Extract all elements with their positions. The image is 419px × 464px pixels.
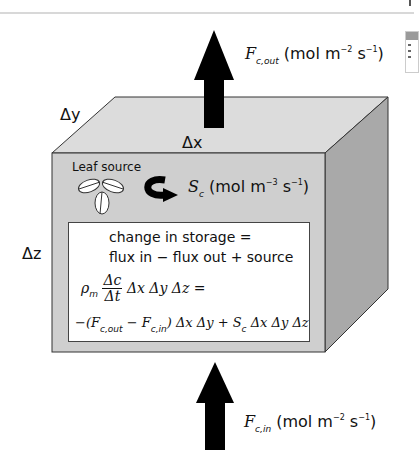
- flux-in-arrow-icon: [196, 362, 234, 450]
- dc-dt-fraction: ΔcΔt: [102, 273, 122, 304]
- mass-balance-equation-box: change in storage = flux in − flux out +…: [68, 222, 310, 342]
- source-term-label: Sc (mol m−3 s−1): [188, 177, 309, 196]
- flux-out-label: Fc,out (mol m−2 s−1): [245, 44, 384, 63]
- equation-text-line1: change in storage =: [109, 229, 252, 245]
- dx-label: Δx: [182, 133, 202, 152]
- flux-in-label: Fc,in (mol m−2 s−1): [244, 412, 376, 431]
- equation-lhs: ρm ΔcΔt Δx Δy Δz =: [81, 273, 205, 304]
- leaf-source-label: Leaf source: [72, 160, 141, 174]
- equation-rhs: −(Fc,out − Fc,in) Δx Δy + Sc Δx Δy Δz: [75, 315, 309, 330]
- equation-text-line2: flux in − flux out + source: [109, 249, 293, 265]
- dy-label: Δy: [60, 105, 80, 124]
- dz-label: Δz: [22, 244, 41, 263]
